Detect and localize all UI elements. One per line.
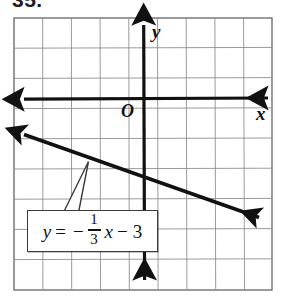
equation-lhs: y — [43, 222, 51, 241]
equation-sign: − — [73, 222, 84, 241]
worksheet-figure: 35. — [0, 0, 285, 302]
origin-label: O — [121, 101, 134, 121]
equation-constant: 3 — [133, 222, 143, 241]
coordinate-graph: y x O — [0, 0, 285, 302]
equation-operator: − — [117, 222, 128, 241]
fraction-denominator: 3 — [88, 231, 100, 248]
x-axis — [24, 98, 268, 99]
fraction-numerator: 1 — [88, 212, 100, 229]
equation-equals: = — [55, 222, 66, 241]
equation-text: y = − 1 3 x − 3 — [43, 213, 143, 248]
equation-variable: x — [105, 222, 113, 241]
x-axis-label: x — [255, 103, 266, 124]
y-axis-label: y — [150, 21, 161, 42]
equation-callout-box: y = − 1 3 x − 3 — [27, 210, 158, 252]
equation-fraction: 1 3 — [88, 212, 101, 247]
